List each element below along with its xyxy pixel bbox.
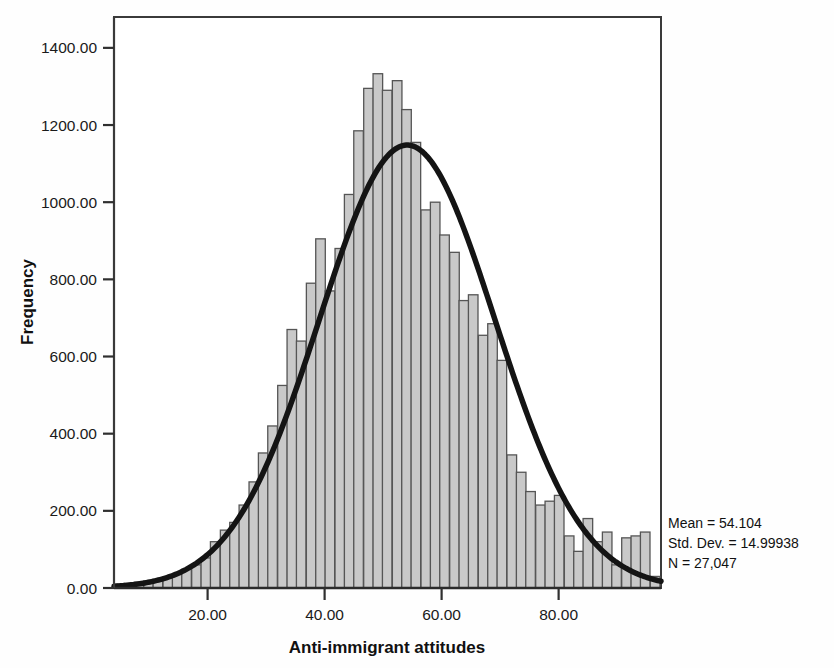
histogram-bar <box>478 335 488 588</box>
histogram-bar <box>373 74 383 588</box>
histogram-bar <box>287 330 297 588</box>
histogram-bar <box>574 551 584 588</box>
annotation-std-dev: Std. Dev. = 14.99938 <box>668 535 799 551</box>
histogram-bar <box>526 492 536 588</box>
histogram-bar <box>344 194 354 588</box>
histogram-bar <box>316 239 326 588</box>
annotation-n: N = 27,047 <box>668 555 737 571</box>
y-tick-label: 1400.00 <box>41 39 97 56</box>
x-axis-title: Anti-immigrant attitudes <box>289 638 485 657</box>
histogram-bar <box>201 558 211 588</box>
histogram-bar <box>631 536 641 588</box>
y-tick-label: 600.00 <box>50 348 98 365</box>
y-tick-label: 1200.00 <box>41 117 97 134</box>
histogram-bar <box>622 538 632 588</box>
histogram-bar <box>325 291 335 588</box>
histogram-bar <box>488 324 498 588</box>
x-tick-label: 40.00 <box>305 606 344 623</box>
histogram-bar <box>364 88 374 588</box>
histogram-bar <box>468 295 478 588</box>
y-tick-label: 800.00 <box>50 271 98 288</box>
histogram-bar <box>392 81 402 588</box>
histogram-bar <box>516 472 526 588</box>
x-tick-label: 60.00 <box>422 606 461 623</box>
histogram-bar <box>612 565 622 588</box>
histogram-bar <box>507 455 517 588</box>
histogram-bar <box>564 536 574 588</box>
histogram-figure: 0.00200.00400.00600.00800.001000.001200.… <box>0 0 834 668</box>
histogram-bar <box>402 110 412 588</box>
histogram-bar <box>450 252 460 588</box>
y-tick-label: 0.00 <box>67 580 98 597</box>
histogram-bar <box>497 360 507 588</box>
histogram-bar <box>335 248 345 588</box>
statistics-annotation: Mean = 54.104 Std. Dev. = 14.99938 N = 2… <box>668 515 799 571</box>
annotation-mean: Mean = 54.104 <box>668 515 762 531</box>
y-tick-label: 400.00 <box>50 425 98 442</box>
y-tick-label: 200.00 <box>50 502 98 519</box>
histogram-bar <box>440 235 450 588</box>
x-tick-label: 80.00 <box>539 606 578 623</box>
x-tick-label: 20.00 <box>188 606 227 623</box>
histogram-bar <box>545 501 555 588</box>
histogram-bar <box>411 142 421 588</box>
histogram-bar <box>421 210 431 588</box>
histogram-bar <box>536 505 546 588</box>
histogram-chart: 0.00200.00400.00600.00800.001000.001200.… <box>0 0 834 668</box>
histogram-bar <box>554 495 564 588</box>
y-tick-label: 1000.00 <box>41 194 97 211</box>
x-axis-ticks: 20.0040.0060.0080.00 <box>188 588 578 623</box>
y-axis-ticks: 0.00200.00400.00600.00800.001000.001200.… <box>41 39 114 596</box>
histogram-bar <box>430 202 440 588</box>
histogram-bar <box>459 301 469 588</box>
y-axis-title: Frequency <box>18 258 37 345</box>
